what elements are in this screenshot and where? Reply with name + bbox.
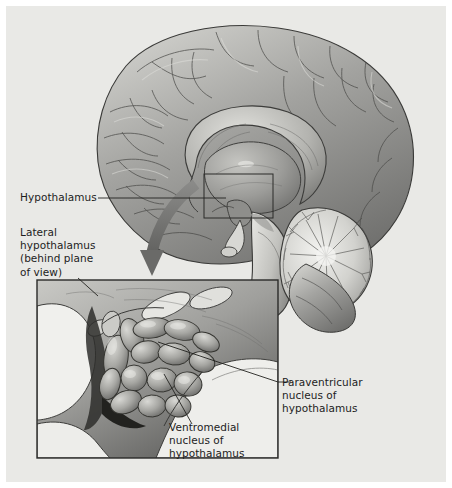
label-ventromedial-nucleus: Ventromedial nucleus of hypothalamus — [169, 421, 244, 461]
label-paraventricular-nucleus: Paraventricular nucleus of hypothalamus — [282, 376, 363, 416]
label-hypothalamus: Hypothalamus — [20, 191, 97, 204]
illustration-plate: Hypothalamus Lateral hypothalamus (behin… — [6, 6, 446, 482]
label-lateral-hypothalamus: Lateral hypothalamus (behind plane of vi… — [20, 226, 95, 279]
figure-page: Hypothalamus Lateral hypothalamus (behin… — [0, 0, 452, 488]
